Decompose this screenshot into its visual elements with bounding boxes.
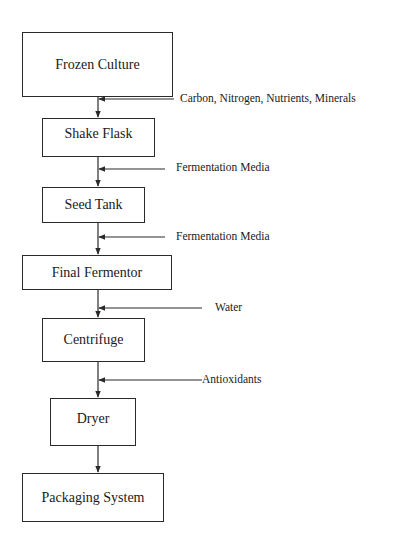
step-packaging-system: Packaging System bbox=[22, 473, 164, 522]
step-label: Packaging System bbox=[41, 491, 144, 505]
step-final-fermentor: Final Fermentor bbox=[22, 255, 172, 290]
input-label-fermentation-media-1: Fermentation Media bbox=[176, 162, 270, 174]
input-label-carbon-nitrogen: Carbon, Nitrogen, Nutrients, Minerals bbox=[180, 93, 356, 105]
step-label: Seed Tank bbox=[64, 198, 122, 212]
step-shake-flask: Shake Flask bbox=[42, 118, 155, 157]
step-label: Dryer bbox=[77, 412, 110, 426]
input-label-antioxidants: Antioxidants bbox=[202, 374, 261, 386]
step-frozen-culture: Frozen Culture bbox=[22, 32, 173, 97]
step-seed-tank: Seed Tank bbox=[42, 187, 145, 223]
input-label-water: Water bbox=[215, 302, 242, 314]
step-label: Frozen Culture bbox=[55, 58, 139, 72]
step-label: Final Fermentor bbox=[52, 266, 143, 280]
step-label: Shake Flask bbox=[64, 127, 132, 141]
input-label-fermentation-media-2: Fermentation Media bbox=[176, 231, 270, 243]
step-label: Centrifuge bbox=[64, 333, 124, 347]
step-dryer: Dryer bbox=[50, 398, 136, 446]
step-centrifuge: Centrifuge bbox=[42, 318, 145, 362]
